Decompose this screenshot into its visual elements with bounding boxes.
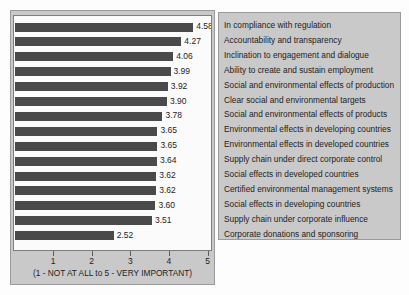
x-axis-tick-label: 4 bbox=[167, 256, 172, 266]
legend-item: Clear social and environmental targets bbox=[224, 94, 366, 106]
legend-item: Environmental effects in developed count… bbox=[224, 138, 389, 150]
bar-value-label: 3.90 bbox=[170, 95, 187, 108]
bar bbox=[15, 201, 155, 210]
x-axis: (1 - NOT AT ALL to 5 - VERY IMPORTANT) 1… bbox=[13, 251, 212, 284]
bar-value-label: 3.62 bbox=[159, 169, 176, 182]
legend-item: Supply chain under direct corporate cont… bbox=[224, 153, 382, 165]
bar-row: 3.60 bbox=[14, 199, 211, 214]
legend-item: Supply chain under corporate influence bbox=[224, 213, 368, 225]
bar-value-label: 2.52 bbox=[117, 229, 134, 242]
bar-row: 3.65 bbox=[14, 140, 211, 155]
bar-row: 3.62 bbox=[14, 184, 211, 199]
chart-panel: 4.584.274.063.993.923.903.783.653.653.64… bbox=[10, 10, 215, 285]
bar-value-label: 3.51 bbox=[155, 214, 172, 227]
bar-row: 3.51 bbox=[14, 214, 211, 229]
bar bbox=[15, 216, 152, 225]
bar bbox=[15, 186, 156, 195]
bar bbox=[15, 52, 173, 61]
legend-item: Social effects in developing countries bbox=[224, 198, 360, 210]
x-axis-tick-label: 5 bbox=[205, 256, 210, 266]
bar-value-label: 3.92 bbox=[171, 80, 188, 93]
bar bbox=[15, 127, 157, 136]
bar-row: 3.78 bbox=[14, 110, 211, 125]
bar-row: 4.58 bbox=[14, 21, 211, 36]
bar-row: 3.92 bbox=[14, 80, 211, 95]
legend-item: Corporate donations and sponsoring bbox=[224, 228, 358, 240]
bar-row: 3.99 bbox=[14, 65, 211, 80]
bar bbox=[15, 112, 162, 121]
bar-row: 3.64 bbox=[14, 155, 211, 170]
legend-panel: In compliance with regulationAccountabil… bbox=[218, 12, 401, 240]
legend-item: In compliance with regulation bbox=[224, 19, 331, 31]
x-axis-label: (1 - NOT AT ALL to 5 - VERY IMPORTANT) bbox=[13, 268, 212, 278]
bar-value-label: 3.99 bbox=[174, 65, 191, 78]
bar-value-label: 4.06 bbox=[176, 50, 193, 63]
legend-item: Accountability and transparency bbox=[224, 34, 342, 46]
x-axis-tick-label: 3 bbox=[128, 256, 133, 266]
bar bbox=[15, 157, 157, 166]
bar bbox=[15, 172, 156, 181]
bar-row: 4.27 bbox=[14, 35, 211, 50]
bar bbox=[15, 67, 171, 76]
bar-value-label: 3.62 bbox=[159, 184, 176, 197]
bar-row: 4.06 bbox=[14, 50, 211, 65]
bar-value-label: 3.64 bbox=[160, 154, 177, 167]
legend-item: Social effects in developed countries bbox=[224, 168, 359, 180]
bar-row: 3.62 bbox=[14, 170, 211, 185]
bar bbox=[15, 82, 168, 91]
bar bbox=[15, 97, 167, 106]
legend-item: Environmental effects in developing coun… bbox=[224, 123, 391, 135]
bar-value-label: 3.60 bbox=[158, 199, 175, 212]
bar bbox=[15, 231, 114, 240]
bar-value-label: 3.78 bbox=[165, 109, 182, 122]
bar-row: 3.65 bbox=[14, 125, 211, 140]
bar bbox=[15, 23, 193, 32]
legend-item: Inclination to engagement and dialogue bbox=[224, 49, 369, 61]
bar-row: 2.52 bbox=[14, 229, 211, 244]
legend-item: Certified environmental management syste… bbox=[224, 183, 393, 195]
x-axis-tick-label: 1 bbox=[51, 256, 56, 266]
bar-value-label: 4.27 bbox=[184, 35, 201, 48]
legend-item: Social and environmental effects of prod… bbox=[224, 108, 387, 120]
plot-area: 4.584.274.063.993.923.903.783.653.653.64… bbox=[13, 15, 212, 251]
x-axis-tick-label: 2 bbox=[89, 256, 94, 266]
bar-value-label: 3.65 bbox=[160, 124, 177, 137]
bar bbox=[15, 142, 157, 151]
bar bbox=[15, 37, 181, 46]
bar-value-label: 3.65 bbox=[160, 139, 177, 152]
legend-item: Social and environmental effects of prod… bbox=[224, 79, 394, 91]
legend-item: Ability to create and sustain employment bbox=[224, 64, 373, 76]
bar-value-label: 4.58 bbox=[196, 20, 212, 33]
bar-row: 3.90 bbox=[14, 95, 211, 110]
